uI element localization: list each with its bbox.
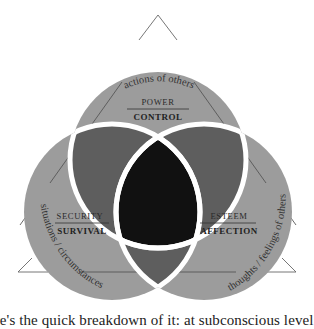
label-security: SECURITY	[57, 211, 104, 221]
label-control: CONTROL	[133, 112, 182, 122]
venn-diagram: POWER CONTROL SECURITY SURVIVAL ESTEEM A…	[0, 0, 314, 300]
label-survival: SURVIVAL	[57, 226, 107, 236]
label-power: POWER	[141, 97, 174, 107]
label-esteem: ESTEEM	[210, 211, 247, 221]
label-affection: AFFECTION	[200, 226, 258, 236]
caption-text: ere's the quick breakdown of it: at subc…	[0, 312, 314, 329]
